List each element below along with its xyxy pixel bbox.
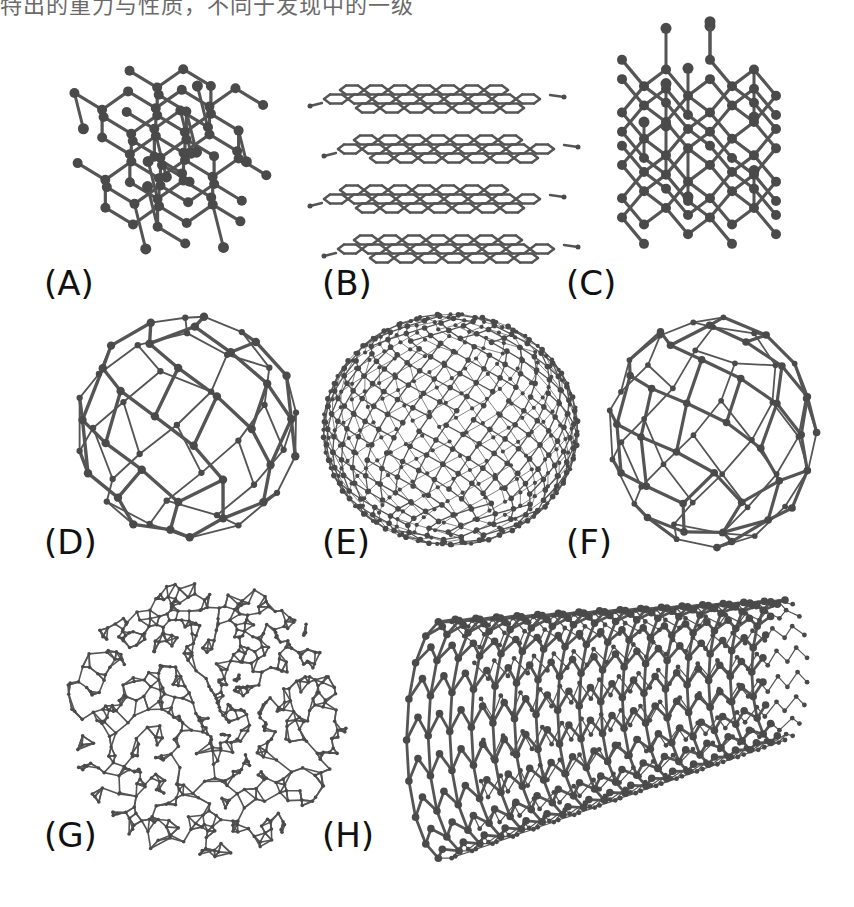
panel-f-c70-fullerene bbox=[595, 312, 830, 552]
lonsdaleite-lattice-illustration bbox=[590, 50, 830, 280]
panel-e-c540-fullerene bbox=[318, 312, 583, 547]
panel-d-c60-fullerene bbox=[60, 305, 315, 550]
graphite-layers-illustration bbox=[318, 85, 573, 255]
panel-b-graphite-layers bbox=[318, 85, 573, 255]
panel-label-e: (E) bbox=[322, 525, 370, 559]
panel-label-b: (B) bbox=[322, 266, 372, 300]
panel-a-diamond-lattice bbox=[60, 40, 310, 280]
panel-label-c: (C) bbox=[566, 266, 616, 300]
panel-label-g: (G) bbox=[44, 818, 97, 852]
panel-label-f: (F) bbox=[566, 525, 612, 559]
panel-label-d: (D) bbox=[44, 525, 97, 559]
c70-fullerene-illustration bbox=[595, 312, 830, 552]
panel-c-lonsdaleite-lattice bbox=[590, 50, 830, 280]
panel-g-amorphous-carbon bbox=[60, 580, 350, 860]
panel-label-a: (A) bbox=[44, 266, 94, 300]
c540-fullerene-illustration bbox=[318, 312, 583, 547]
clipped-top-caption: 特出的重力与性质，不同于发现中的一级 bbox=[0, 0, 414, 19]
panel-h-carbon-nanotube bbox=[355, 590, 810, 860]
c60-fullerene-illustration bbox=[60, 305, 315, 550]
amorphous-carbon-illustration bbox=[60, 580, 350, 860]
carbon-nanotube-illustration bbox=[355, 590, 810, 860]
panel-label-h: (H) bbox=[322, 818, 374, 852]
diamond-lattice-illustration bbox=[60, 40, 310, 280]
